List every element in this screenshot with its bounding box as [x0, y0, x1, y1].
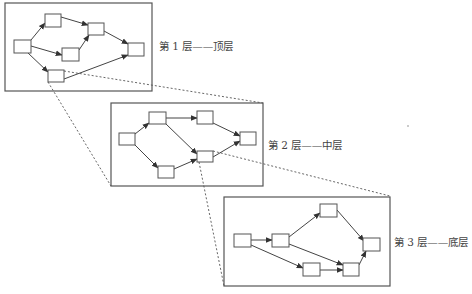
- node: [62, 48, 79, 61]
- speck: [407, 125, 409, 127]
- node: [45, 14, 61, 27]
- layer-1-label: 第 1 层——顶层: [159, 38, 233, 53]
- layer-3-frame: [224, 197, 390, 286]
- node: [240, 132, 256, 145]
- node: [363, 238, 380, 251]
- node: [234, 234, 251, 247]
- node: [343, 263, 359, 276]
- node-expanded: [197, 151, 213, 162]
- node: [303, 263, 320, 276]
- node: [88, 23, 104, 35]
- layer-3-label: 第 3 层——底层: [394, 234, 468, 249]
- node: [320, 204, 337, 217]
- node: [272, 234, 289, 247]
- node-expanded: [48, 70, 64, 82]
- node: [119, 133, 135, 145]
- node: [128, 43, 144, 56]
- layer-2-frame: [111, 103, 263, 186]
- node: [197, 111, 213, 124]
- layer-2-label: 第 2 层——中层: [268, 137, 342, 152]
- hierarchy-diagram: [0, 0, 472, 294]
- node: [14, 40, 31, 53]
- node: [158, 166, 174, 178]
- node: [149, 112, 166, 124]
- layer-1-frame: [5, 3, 152, 91]
